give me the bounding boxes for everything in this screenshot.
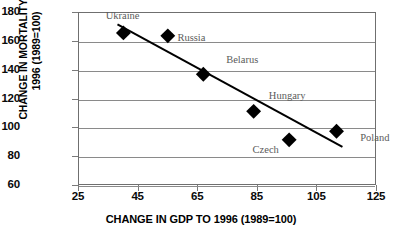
x-axis-title: CHANGE IN GDP TO 1996 (1989=100): [0, 213, 402, 225]
data-point-marker[interactable]: [116, 26, 131, 41]
x-tick-label: 105: [296, 191, 336, 203]
y-axis-title: CHANGE IN MORTALITY TO 1996 (1989=100): [17, 0, 43, 136]
gridline: [79, 186, 375, 187]
x-tick-mark: [376, 185, 377, 191]
y-tick-label: 100: [0, 121, 20, 133]
x-tick-label: 45: [118, 191, 158, 203]
data-point-label: Russia: [177, 33, 205, 44]
trendline: [117, 24, 342, 147]
scatter-chart-figure: CHANGE IN MORTALITY TO 1996 (1989=100) 1…: [0, 0, 402, 245]
data-point-marker[interactable]: [246, 104, 261, 119]
x-tick-label: 65: [177, 191, 217, 203]
y-tick-label: 140: [0, 64, 20, 76]
y-tick-label: 160: [0, 35, 20, 47]
data-point-label: Hungary: [269, 91, 306, 102]
y-tick-label: 120: [0, 93, 20, 105]
data-point-marker[interactable]: [160, 28, 175, 43]
data-point-marker[interactable]: [282, 132, 297, 147]
data-layer: [79, 13, 375, 184]
data-point-label: Czech: [253, 145, 279, 156]
y-tick-label: 180: [0, 6, 20, 18]
data-point-marker[interactable]: [329, 124, 344, 139]
data-point-label: Belarus: [226, 55, 258, 66]
plot-area: UkraineRussiaBelarusHungaryCzechPoland: [78, 12, 376, 185]
data-point-label: Poland: [360, 133, 389, 144]
x-tick-label: 85: [237, 191, 277, 203]
data-point-label: Ukraine: [106, 11, 140, 22]
x-tick-label: 25: [58, 191, 98, 203]
x-tick-label: 125: [356, 191, 396, 203]
y-tick-label: 80: [0, 150, 20, 162]
y-tick-label: 60: [0, 179, 20, 191]
y-axis-title-line2: 1996 (1989=100): [30, 12, 42, 91]
